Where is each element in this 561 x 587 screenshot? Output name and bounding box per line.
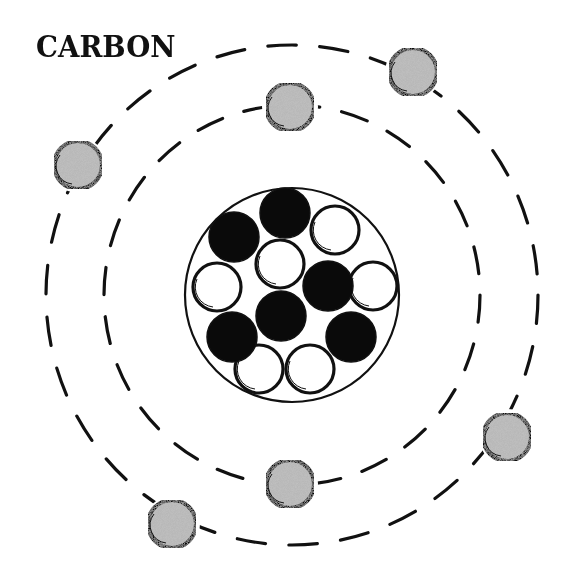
carbon-atom-diagram	[0, 0, 561, 587]
nucleus	[185, 188, 399, 402]
proton	[326, 312, 376, 362]
neutron	[286, 345, 334, 393]
electron	[266, 83, 314, 131]
neutron	[349, 262, 397, 310]
electron	[483, 413, 531, 461]
proton	[207, 312, 257, 362]
electron	[389, 48, 437, 96]
neutron	[193, 263, 241, 311]
electron	[148, 500, 196, 548]
electron	[54, 141, 102, 189]
electron	[266, 460, 314, 508]
proton	[209, 212, 259, 262]
proton	[256, 291, 306, 341]
proton	[303, 261, 353, 311]
proton	[260, 188, 310, 238]
neutron	[256, 240, 304, 288]
neutron	[311, 206, 359, 254]
